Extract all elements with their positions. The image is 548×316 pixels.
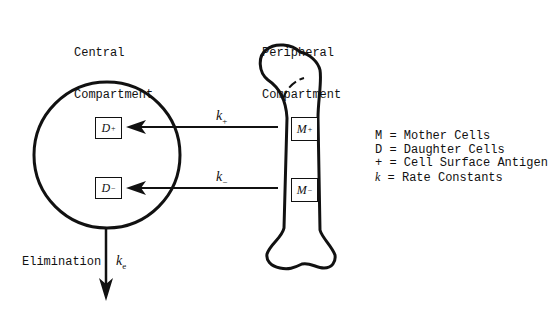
rate-k-minus: k− (216, 169, 227, 187)
daughter-plus-box: D+ (95, 117, 122, 139)
legend: M = Mother Cells D = Daughter Cells + = … (375, 130, 548, 185)
legend-item: + = Cell Surface Antigen (375, 157, 548, 171)
peripheral-compartment-title: Peripheral Compartment (262, 18, 341, 116)
mother-minus-box: M− (291, 178, 318, 202)
mother-plus-box: M+ (291, 117, 318, 141)
elimination-label: Elimination (22, 255, 101, 269)
rate-k-e: ke (116, 253, 126, 271)
legend-item: k = Rate Constants (375, 171, 548, 186)
legend-item: M = Mother Cells (375, 130, 548, 144)
rate-k-plus: k+ (216, 108, 227, 126)
central-compartment-title: Central Compartment (74, 18, 153, 116)
daughter-minus-box: D− (95, 177, 122, 199)
legend-item: D = Daughter Cells (375, 144, 548, 158)
